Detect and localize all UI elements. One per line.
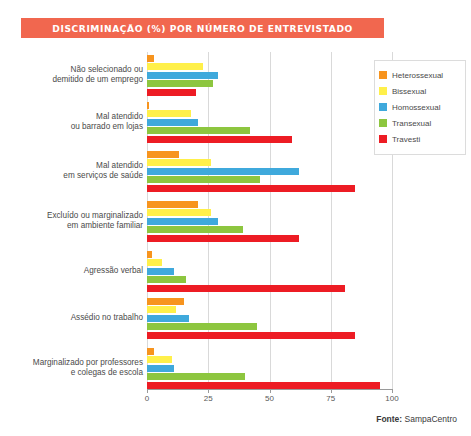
bar-row xyxy=(147,226,392,233)
bar-transexual xyxy=(147,226,243,233)
category-label-line: Não selecionado ou xyxy=(11,65,143,76)
bar-row xyxy=(147,315,392,322)
bar-row xyxy=(147,298,392,305)
bar-row xyxy=(147,151,392,158)
category-label-1: Não selecionado oudemitido de um emprego xyxy=(11,65,143,86)
category-label-line: Marginalizado por professores xyxy=(11,358,143,369)
bar-row xyxy=(147,365,392,372)
source-label: Fonte: xyxy=(376,414,402,424)
bar-row xyxy=(147,89,392,96)
bar-heterossexual xyxy=(147,298,184,305)
bar-homossexual xyxy=(147,218,218,225)
category-label-line: e colegas de escola xyxy=(11,368,143,379)
category-axis-labels: Não selecionado oudemitido de um emprego… xyxy=(8,0,143,436)
bar-row xyxy=(147,285,392,292)
bar-row xyxy=(147,268,392,275)
bar-row xyxy=(147,102,392,109)
bar-row xyxy=(147,159,392,166)
bar-bissexual xyxy=(147,306,176,313)
x-tick-label-100: 100 xyxy=(385,394,398,403)
bar-travesti xyxy=(147,136,292,143)
bar-bissexual xyxy=(147,209,211,216)
bar-row xyxy=(147,168,392,175)
category-label-line: Assédio no trabalho xyxy=(11,313,143,324)
bar-homossexual xyxy=(147,315,189,322)
bar-heterossexual xyxy=(147,251,152,258)
legend-item-travesti[interactable]: Travesti xyxy=(379,131,461,147)
x-tick-label-25: 25 xyxy=(204,394,213,403)
legend-item-homossexual[interactable]: Homossexual xyxy=(379,99,461,115)
bar-transexual xyxy=(147,323,257,330)
source-value: SampaCentro xyxy=(405,414,457,424)
bar-row xyxy=(147,110,392,117)
x-tick-mark-50 xyxy=(270,389,271,393)
legend-swatch-icon xyxy=(379,71,387,79)
bar-row xyxy=(147,235,392,242)
bar-homossexual xyxy=(147,72,218,79)
bar-row xyxy=(147,323,392,330)
bar-row xyxy=(147,332,392,339)
x-tick-mark-0 xyxy=(147,389,148,393)
chart-legend: HeterossexualBissexualHomossexualTransex… xyxy=(374,60,466,155)
bar-row xyxy=(147,306,392,313)
category-label-line: demitido de um emprego xyxy=(11,75,143,86)
bar-heterossexual xyxy=(147,201,198,208)
bar-transexual xyxy=(147,127,250,134)
bar-row xyxy=(147,276,392,283)
x-tick-label-50: 50 xyxy=(265,394,274,403)
source-note: Fonte: SampaCentro xyxy=(376,414,457,424)
bar-row xyxy=(147,259,392,266)
category-label-line: Excluído ou marginalizado xyxy=(11,211,143,222)
x-tick-mark-75 xyxy=(331,389,332,393)
bar-heterossexual xyxy=(147,151,179,158)
bar-heterossexual xyxy=(147,348,154,355)
bar-row xyxy=(147,356,392,363)
bar-row xyxy=(147,373,392,380)
bar-travesti xyxy=(147,285,345,292)
bar-travesti xyxy=(147,382,380,389)
plot-area xyxy=(147,52,392,389)
bar-bissexual xyxy=(147,63,203,70)
bar-row xyxy=(147,209,392,216)
legend-label: Travesti xyxy=(392,135,420,144)
legend-swatch-icon xyxy=(379,119,387,127)
legend-label: Heterossexual xyxy=(392,71,443,80)
bar-travesti xyxy=(147,185,355,192)
bar-bissexual xyxy=(147,110,191,117)
legend-swatch-icon xyxy=(379,103,387,111)
category-label-line: em serviços de saúde xyxy=(11,171,143,182)
legend-item-heterossexual[interactable]: Heterossexual xyxy=(379,67,461,83)
bar-travesti xyxy=(147,89,196,96)
bar-homossexual xyxy=(147,168,299,175)
bar-bissexual xyxy=(147,356,172,363)
legend-item-transexual[interactable]: Transexual xyxy=(379,115,461,131)
category-label-line: Mal atendido xyxy=(11,161,143,172)
category-label-5: Agressão verbal xyxy=(11,266,143,277)
bar-row xyxy=(147,55,392,62)
bar-row xyxy=(147,119,392,126)
bar-row xyxy=(147,176,392,183)
bar-transexual xyxy=(147,276,186,283)
bar-row xyxy=(147,72,392,79)
bar-row xyxy=(147,63,392,70)
x-tick-mark-100 xyxy=(392,389,393,393)
x-tick-label-0: 0 xyxy=(145,394,149,403)
legend-swatch-icon xyxy=(379,87,387,95)
bar-row xyxy=(147,185,392,192)
category-label-line: ou barrado em lojas xyxy=(11,122,143,133)
bar-heterossexual xyxy=(147,102,149,109)
legend-label: Bissexual xyxy=(392,87,426,96)
legend-label: Homossexual xyxy=(392,103,440,112)
bar-transexual xyxy=(147,373,245,380)
bar-bissexual xyxy=(147,159,211,166)
bar-row xyxy=(147,127,392,134)
bar-bissexual xyxy=(147,259,162,266)
legend-item-bissexual[interactable]: Bissexual xyxy=(379,83,461,99)
x-tick-mark-25 xyxy=(208,389,209,393)
x-tick-label-75: 75 xyxy=(326,394,335,403)
bar-row xyxy=(147,218,392,225)
bar-row xyxy=(147,251,392,258)
bar-transexual xyxy=(147,176,260,183)
legend-label: Transexual xyxy=(392,119,431,128)
legend-swatch-icon xyxy=(379,135,387,143)
